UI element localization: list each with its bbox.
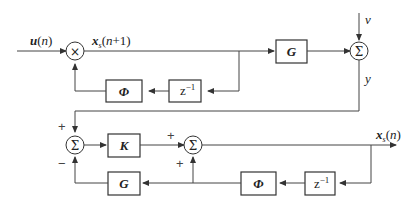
sum-left-symbol: Σ — [71, 139, 79, 153]
multiplier-symbol: × — [70, 45, 80, 59]
feedback-branch-top — [208, 51, 239, 91]
sign-right-left: + — [167, 128, 175, 143]
top-g-label: G — [287, 44, 297, 59]
noise-label: v — [365, 12, 371, 27]
gain-k-label: K — [119, 138, 130, 153]
g-to-sum-left — [75, 157, 108, 183]
phi-to-multiplier — [75, 64, 106, 91]
output-label: y — [363, 71, 371, 86]
block-diagram: × z−1 Φ G Σ Σ K Σ z−1 Φ G — [0, 0, 415, 211]
feedback-branch-bottom — [340, 145, 371, 183]
top-phi-label: Φ — [119, 84, 130, 99]
sum-right-symbol: Σ — [189, 139, 197, 153]
estimate-label: xs(n) — [375, 127, 401, 144]
input-label: u(n) — [30, 33, 52, 48]
bottom-phi-label: Φ — [253, 176, 264, 191]
sign-left-top: + — [58, 119, 66, 134]
bottom-g-label: G — [119, 176, 129, 191]
state-next-label: xs(n+1) — [91, 33, 131, 50]
sign-right-bottom: + — [176, 156, 184, 171]
sum-top-symbol: Σ — [355, 45, 363, 59]
sign-left-bottom: − — [58, 156, 66, 171]
